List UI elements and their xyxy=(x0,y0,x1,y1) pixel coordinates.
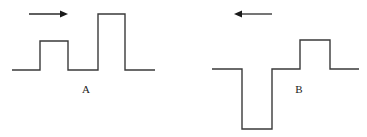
waveform-b xyxy=(212,40,359,129)
panel-a: A xyxy=(12,11,155,96)
waveform-a xyxy=(12,14,155,70)
direction-arrow-left-icon xyxy=(234,11,272,18)
pulse-diagram: A B xyxy=(0,0,367,137)
panel-b: B xyxy=(212,11,359,130)
direction-arrow-right-icon xyxy=(29,11,68,18)
panel-label-a: A xyxy=(82,83,90,95)
panel-label-b: B xyxy=(295,83,302,95)
